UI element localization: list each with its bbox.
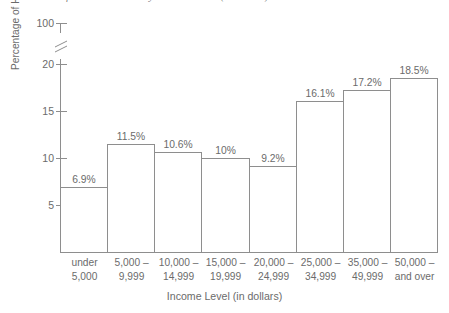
bar: 6.9%	[60, 187, 108, 252]
bar: 11.5%	[107, 144, 155, 252]
x-label-line-1: under	[72, 257, 98, 268]
bar: 17.2%	[343, 90, 391, 252]
plot-area: Percentage of Households 5101520100 6.9%…	[61, 20, 438, 252]
y-axis-tick-label: 10	[42, 152, 54, 164]
bar-value-label: 10%	[215, 145, 236, 156]
x-label-line-1: 25,000 –	[301, 257, 341, 268]
y-axis-tick-mark	[56, 158, 67, 159]
bar: 9.2%	[249, 166, 297, 252]
bar: 10.6%	[154, 152, 202, 252]
x-label-line-1: 15,000 –	[206, 257, 246, 268]
x-label-line-1: 5,000 –	[115, 257, 149, 268]
bar-value-label: 17.2%	[352, 77, 381, 88]
y-axis-tick-mark	[56, 64, 67, 65]
x-label-line-2: and over	[387, 270, 442, 284]
y-axis-tick-mark	[56, 111, 67, 112]
axis-break-icon	[54, 33, 68, 59]
x-label-line-1: 10,000 –	[159, 257, 199, 268]
x-label-line-2: 19,999	[198, 270, 253, 284]
bar: 10%	[201, 158, 250, 252]
bar: 18.5%	[390, 78, 438, 252]
x-label-line-1: 20,000 –	[254, 257, 294, 268]
chart-title: Distribution of Household Income by U.S.…	[13, 0, 433, 3]
bar-value-label: 18.5%	[399, 65, 428, 76]
y-axis-title: Percentage of Households	[10, 0, 21, 70]
bar-value-label: 11.5%	[117, 131, 145, 142]
y-axis-tick-mark	[56, 23, 67, 24]
y-axis-tick-label: 100	[36, 17, 54, 29]
y-axis-tick-label: 20	[42, 58, 54, 70]
bar-value-label: 10.6%	[163, 139, 192, 150]
bar: 16.1%	[296, 101, 344, 252]
x-axis-line	[60, 252, 438, 253]
x-label-line-1: 35,000 –	[348, 257, 388, 268]
x-label-line-1: 50,000 –	[395, 257, 435, 268]
x-axis-title: Income Level (in dollars)	[0, 290, 449, 302]
bar-value-label: 6.9%	[72, 174, 95, 185]
bar-value-label: 16.1%	[305, 88, 334, 99]
bar-chart: Distribution of Household Income by U.S.…	[0, 0, 449, 313]
bar-value-label: 9.2%	[261, 153, 284, 164]
y-axis-tick-label: 15	[42, 105, 54, 117]
x-axis-category-label: 50,000 –and over	[387, 256, 442, 283]
x-axis-category-label: 15,000 –19,999	[198, 256, 253, 283]
y-axis-tick-label: 5	[48, 199, 54, 211]
